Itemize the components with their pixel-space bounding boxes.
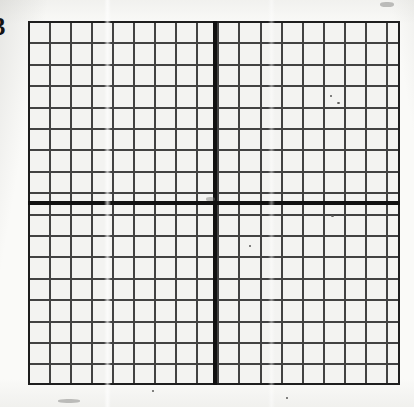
scan-smudge-3	[58, 399, 80, 403]
scanned-page: 3	[0, 0, 414, 407]
edge-page-number: 3	[0, 14, 6, 39]
scan-smudge-2	[380, 2, 394, 7]
x-axis-line	[28, 201, 400, 205]
scan-speck-5	[152, 390, 154, 392]
scan-speck-6	[286, 397, 288, 399]
coordinate-grid	[28, 21, 400, 385]
